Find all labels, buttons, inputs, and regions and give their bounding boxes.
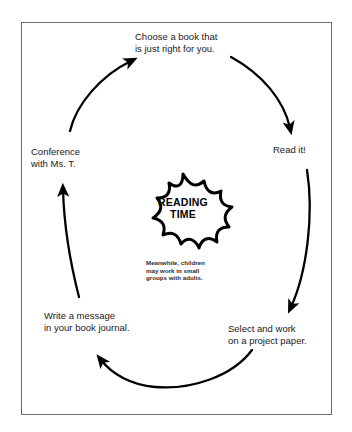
starburst-note: Meanwhile, children may work in small gr…	[146, 259, 222, 282]
diagram-page: Choose a book that is just right for you…	[0, 0, 352, 432]
arrow-choose-to-read	[231, 57, 290, 128]
node-label-read: Read it!	[273, 144, 306, 156]
node-label-conference: Conference with Ms. T.	[31, 146, 80, 169]
node-label-write: Write a message in your book journal.	[44, 310, 130, 333]
node-label-choose: Choose a book that is just right for you…	[135, 31, 217, 54]
node-label-select: Select and work on a project paper.	[228, 323, 307, 346]
arrow-read-to-select	[291, 170, 310, 307]
arrow-conference-to-choose	[70, 61, 131, 131]
arrow-select-to-write	[101, 350, 252, 387]
starburst-label: READING TIME	[143, 196, 223, 220]
arrow-write-to-conference	[63, 190, 79, 297]
